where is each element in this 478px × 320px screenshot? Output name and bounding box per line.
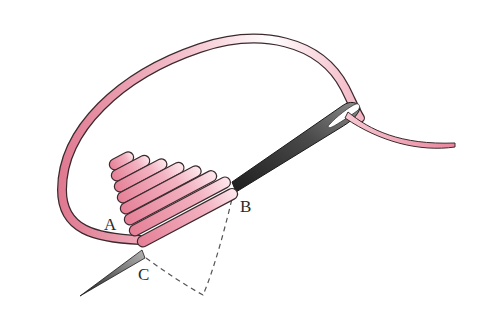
label-b: B — [240, 198, 251, 215]
needle-tip — [80, 250, 145, 296]
stitch-diagram: A B C — [0, 0, 478, 320]
needle — [232, 102, 360, 192]
label-a: A — [104, 216, 116, 233]
stitches — [107, 150, 239, 249]
illustration — [0, 0, 478, 320]
label-c: C — [138, 266, 149, 283]
